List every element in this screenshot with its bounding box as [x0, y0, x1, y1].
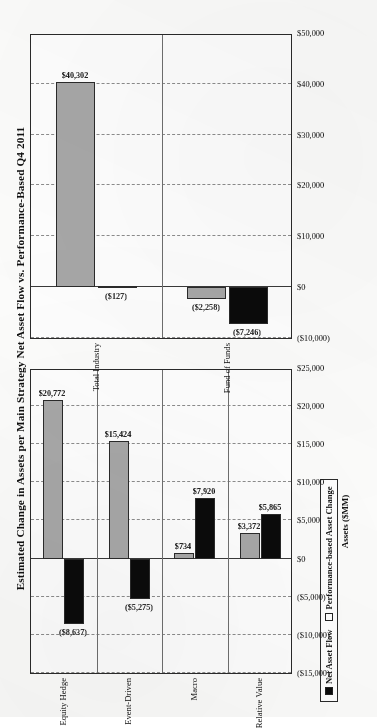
axis-tick-label: $0	[297, 555, 305, 564]
axis-tick-label: $10,000	[297, 479, 324, 488]
legend-swatch-hollow-icon	[325, 613, 333, 621]
bar-value-label: $15,424	[104, 430, 131, 439]
axis-tick-label: ($10,000)	[297, 631, 330, 640]
category-label: Event-Driven	[123, 678, 133, 725]
axis-title: Assets ($MM)	[340, 495, 350, 549]
axis-tick-label: $15,000	[297, 441, 324, 450]
gridline	[31, 337, 291, 338]
page-title: Estimated Change in Assets per Main Stra…	[14, 0, 26, 717]
axis-tick-label: $5,000	[297, 517, 320, 526]
bar-performance-based	[174, 553, 194, 559]
legend-swatch-filled-icon	[325, 687, 333, 695]
category-label: Equity Hedge	[58, 678, 68, 726]
axis-tick-label: $10,000	[297, 233, 324, 242]
axis-tick-label: ($10,000)	[297, 335, 330, 344]
bar-value-label: ($7,246)	[233, 328, 261, 337]
axis-tick-label: ($5,000)	[297, 593, 326, 602]
gridline	[31, 481, 291, 482]
category-separator	[162, 370, 163, 673]
bar-net-asset-flow	[98, 286, 137, 288]
category-separator	[162, 35, 163, 338]
bar-value-label: $3,372	[238, 522, 261, 531]
bar-value-label: $40,302	[61, 71, 88, 80]
axis-tick-label: $30,000	[297, 131, 324, 140]
gridline	[31, 443, 291, 444]
category-label: Total Industry	[91, 343, 101, 391]
bar-value-label: $7,920	[193, 487, 216, 496]
gridline	[31, 520, 291, 521]
bar-net-asset-flow	[261, 514, 281, 559]
bar-performance-based	[187, 287, 226, 298]
axis-tick-label: $0	[297, 284, 305, 293]
bar-net-asset-flow	[64, 559, 84, 625]
bar-performance-based	[56, 82, 95, 287]
axis-tick-label: $50,000	[297, 30, 324, 39]
axis-tick-label: ($15,000)	[297, 670, 330, 679]
gridline	[31, 672, 291, 673]
bar-value-label: $734	[175, 542, 191, 551]
axis-tick-label: $20,000	[297, 182, 324, 191]
bar-net-asset-flow	[130, 559, 150, 599]
bar-net-asset-flow	[195, 498, 215, 558]
category-separator	[97, 370, 98, 673]
bar-value-label: ($127)	[106, 292, 128, 301]
axis-tick-label: $20,000	[297, 403, 324, 412]
bar-value-label: $20,772	[39, 389, 66, 398]
bar-performance-based	[240, 533, 260, 559]
bar-value-label: $5,865	[258, 503, 281, 512]
category-separator	[228, 370, 229, 673]
bar-value-label: ($2,258)	[192, 303, 220, 312]
axis-tick-label: $25,000	[297, 365, 324, 374]
bar-value-label: ($5,275)	[125, 603, 153, 612]
category-label: Macro	[189, 678, 199, 700]
bar-performance-based	[109, 441, 129, 559]
bar-performance-based	[43, 400, 63, 558]
axis-tick-label: $40,000	[297, 80, 324, 89]
gridline	[31, 405, 291, 406]
bar-value-label: ($8,637)	[59, 628, 87, 637]
category-label: Relative Value	[254, 678, 264, 728]
legend-label: Performance-based Asset Change	[324, 486, 334, 609]
category-label: Fund of Funds	[222, 343, 232, 393]
bar-net-asset-flow	[229, 287, 268, 324]
